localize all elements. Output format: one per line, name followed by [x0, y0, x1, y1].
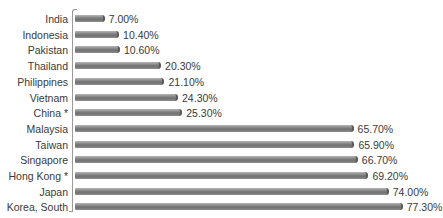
category-label: Vietnam [30, 91, 68, 105]
value-label: 65.90% [358, 138, 394, 152]
bar [75, 156, 358, 163]
category-label: Japan [39, 185, 68, 199]
value-label: 65.70% [358, 122, 394, 136]
category-label: Pakistan [28, 43, 68, 57]
bar-row: Thailand20.30% [0, 59, 443, 73]
value-label: 10.40% [123, 28, 159, 42]
category-label: Taiwan [35, 138, 68, 152]
category-label: India [45, 12, 68, 26]
category-label: Korea, South [7, 200, 68, 214]
bar [75, 15, 105, 22]
bar-row: India7.00% [0, 12, 443, 26]
bar-row: Philippines21.10% [0, 75, 443, 89]
bar [75, 203, 403, 210]
value-label: 25.30% [186, 106, 222, 120]
category-label: Hong Kong * [8, 169, 68, 183]
bar-row: Taiwan65.90% [0, 138, 443, 152]
bar [75, 141, 354, 148]
value-label: 7.00% [109, 12, 139, 26]
bar [75, 109, 182, 116]
value-label: 66.70% [362, 153, 398, 167]
value-label: 10.60% [124, 43, 160, 57]
category-label: Thailand [28, 59, 68, 73]
bar-row: Hong Kong *69.20% [0, 169, 443, 183]
bar-row: Korea, South77.30% [0, 200, 443, 214]
bar-row: Indonesia10.40% [0, 28, 443, 42]
bar-row: Vietnam24.30% [0, 91, 443, 105]
bar-row: Malaysia65.70% [0, 122, 443, 136]
category-label: Indonesia [22, 28, 68, 42]
bar [75, 188, 389, 195]
bar [75, 125, 354, 132]
bar [75, 62, 161, 69]
value-label: 21.10% [168, 75, 204, 89]
bar [75, 172, 368, 179]
value-label: 69.20% [372, 169, 408, 183]
bar [75, 94, 178, 101]
bar-row: China *25.30% [0, 106, 443, 120]
value-label: 24.30% [182, 91, 218, 105]
value-label: 20.30% [165, 59, 201, 73]
bar-row: Singapore66.70% [0, 153, 443, 167]
category-label: China * [34, 106, 68, 120]
category-label: Philippines [17, 75, 68, 89]
bar-row: Japan74.00% [0, 185, 443, 199]
value-label: 77.30% [407, 200, 443, 214]
category-label: Singapore [20, 153, 68, 167]
bar [75, 46, 120, 53]
category-label: Malaysia [27, 122, 68, 136]
value-label: 74.00% [393, 185, 429, 199]
bar-row: Pakistan10.60% [0, 43, 443, 57]
bar [75, 31, 119, 38]
bar [75, 78, 164, 85]
horizontal-bar-chart: India7.00%Indonesia10.40%Pakistan10.60%T… [0, 0, 443, 218]
